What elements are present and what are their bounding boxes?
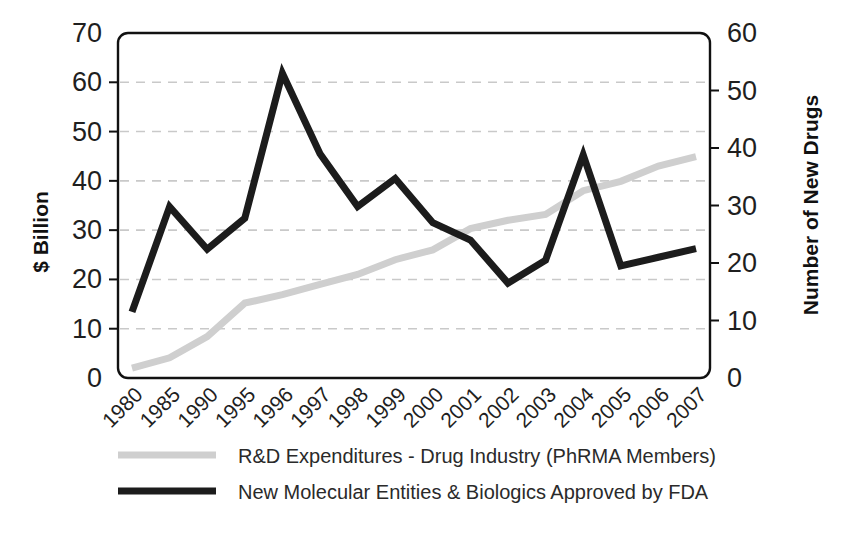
x-tick-label: 1995 — [210, 383, 259, 432]
legend-label: New Molecular Entities & Biologics Appro… — [238, 481, 709, 503]
y-axis-title: $ Billion — [29, 191, 52, 273]
y2-tick-label: 0 — [727, 363, 742, 393]
left-axis-ticks — [109, 82, 118, 328]
chart-container: 010203040506070 0102030405060 1980198519… — [0, 0, 858, 537]
x-tick-label: 1998 — [323, 383, 372, 432]
y-tick-label: 10 — [72, 314, 102, 344]
legend-label: R&D Expenditures - Drug Industry (PhRMA … — [238, 445, 716, 467]
x-tick-label: 2002 — [474, 383, 523, 432]
y2-tick-label: 30 — [727, 191, 757, 221]
x-tick-label: 2000 — [398, 383, 447, 432]
x-tick-label: 1997 — [286, 383, 335, 432]
y2-tick-label: 40 — [727, 133, 757, 163]
chart-legend: R&D Expenditures - Drug Industry (PhRMA … — [118, 445, 716, 503]
y-tick-label: 30 — [72, 215, 102, 245]
right-axis-ticks — [710, 91, 719, 321]
y-tick-label: 0 — [87, 363, 102, 393]
x-tick-label: 2007 — [662, 383, 711, 432]
x-tick-label: 1980 — [98, 383, 147, 432]
y2-tick-label: 50 — [727, 76, 757, 106]
x-axis-tick-labels: 1980198519901995199619971998199920002001… — [98, 382, 711, 432]
y2-tick-label: 60 — [727, 18, 757, 48]
right-axis-tick-labels: 0102030405060 — [727, 18, 757, 393]
x-tick-label: 1996 — [248, 383, 297, 432]
y-tick-label: 70 — [72, 18, 102, 48]
series-line — [132, 73, 696, 312]
y-tick-label: 20 — [72, 264, 102, 294]
line-chart: 010203040506070 0102030405060 1980198519… — [0, 0, 858, 537]
left-axis-tick-labels: 010203040506070 — [72, 18, 102, 393]
series-line — [132, 157, 696, 368]
series-lines — [132, 73, 696, 368]
y-tick-label: 40 — [72, 166, 102, 196]
x-tick-label: 2004 — [549, 382, 599, 432]
y-tick-label: 50 — [72, 117, 102, 147]
x-tick-label: 1999 — [361, 383, 410, 432]
x-tick-label: 2005 — [586, 383, 635, 432]
x-tick-label: 2003 — [511, 383, 560, 432]
y-tick-label: 60 — [72, 67, 102, 97]
y2-tick-label: 10 — [727, 306, 757, 336]
x-tick-label: 1985 — [135, 383, 184, 432]
y2-axis-title: Number of New Drugs — [799, 95, 822, 316]
y2-tick-label: 20 — [727, 248, 757, 278]
x-tick-label: 2006 — [624, 383, 673, 432]
x-tick-label: 1990 — [173, 383, 222, 432]
x-tick-label: 2001 — [436, 383, 485, 432]
